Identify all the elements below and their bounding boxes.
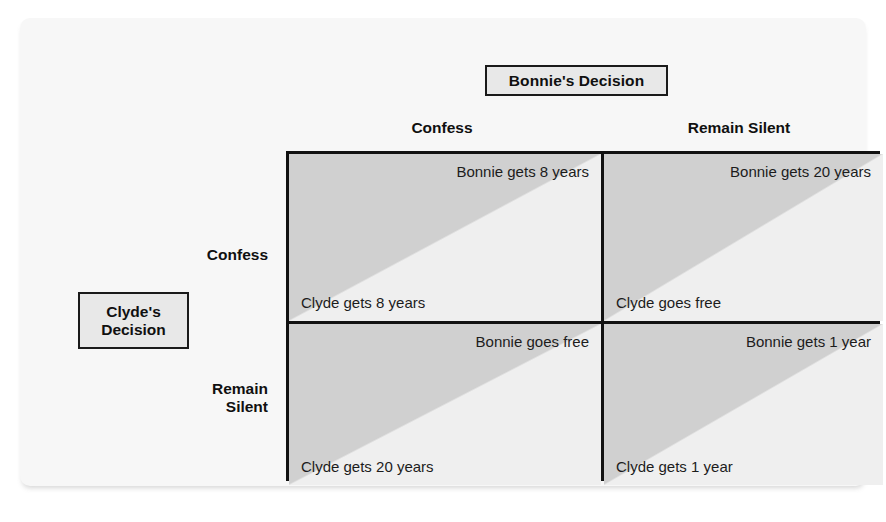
matrix-cell-remainsilent-confess: Bonnie goes free Clyde gets 20 years [289, 324, 601, 485]
bonnie-payoff-label: Bonnie gets 20 years [730, 163, 871, 180]
payoff-matrix: Bonnie gets 8 years Clyde gets 8 years B… [286, 151, 880, 481]
row-label-confess: Confess [170, 246, 268, 264]
column-label-confess: Confess [286, 116, 598, 140]
clyde-payoff-label: Clyde gets 1 year [616, 458, 733, 475]
bonnie-payoff-label: Bonnie goes free [476, 333, 589, 350]
clyde-payoff-label: Clyde gets 20 years [301, 458, 434, 475]
column-label-remain-silent: Remain Silent [598, 116, 880, 140]
row-header-box: Clyde's Decision [78, 292, 189, 349]
matrix-cell-confess-remainsilent: Bonnie gets 20 years Clyde goes free [604, 154, 883, 321]
bonnie-payoff-label: Bonnie gets 1 year [746, 333, 871, 350]
row-label-confess-line1: Confess [170, 246, 268, 264]
matrix-cell-confess-confess: Bonnie gets 8 years Clyde gets 8 years [289, 154, 601, 321]
row-label-remain-silent-line1: Remain [170, 380, 268, 398]
clyde-payoff-label: Clyde goes free [616, 294, 721, 311]
row-header-label-line1: Clyde's [106, 303, 161, 320]
row-label-remain-silent: Remain Silent [170, 380, 268, 415]
matrix-cell-remainsilent-remainsilent: Bonnie gets 1 year Clyde gets 1 year [604, 324, 883, 485]
bonnie-payoff-label: Bonnie gets 8 years [456, 163, 589, 180]
figure-panel: Bonnie's Decision Clyde's Decision Confe… [20, 18, 866, 486]
clyde-payoff-label: Clyde gets 8 years [301, 294, 425, 311]
row-header-label-line2: Decision [101, 321, 166, 338]
column-header-box: Bonnie's Decision [485, 65, 668, 96]
row-label-remain-silent-line2: Silent [170, 398, 268, 416]
column-header-label: Bonnie's Decision [509, 72, 644, 90]
